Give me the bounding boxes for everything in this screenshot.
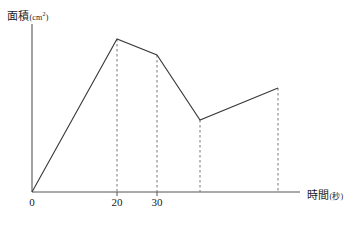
y-axis-unit-superscript: 2 bbox=[42, 11, 45, 17]
graph-figure: 面積(cm2) 時間(秒) 0 20 30 bbox=[0, 0, 362, 225]
x-axis-label-main: 時間 bbox=[307, 189, 329, 201]
x-axis-label: 時間(秒) bbox=[307, 186, 343, 202]
y-axis-label-unit: (cm2) bbox=[29, 13, 48, 22]
x-axis-label-unit: (秒) bbox=[329, 192, 343, 201]
y-axis-label-main: 面積 bbox=[7, 10, 29, 22]
x-tick-label-30: 30 bbox=[152, 196, 163, 208]
x-tick-label-20: 20 bbox=[112, 196, 123, 208]
x-tick-label-0: 0 bbox=[29, 196, 35, 208]
data-line bbox=[32, 39, 278, 192]
y-axis-label: 面積(cm2) bbox=[7, 7, 49, 23]
